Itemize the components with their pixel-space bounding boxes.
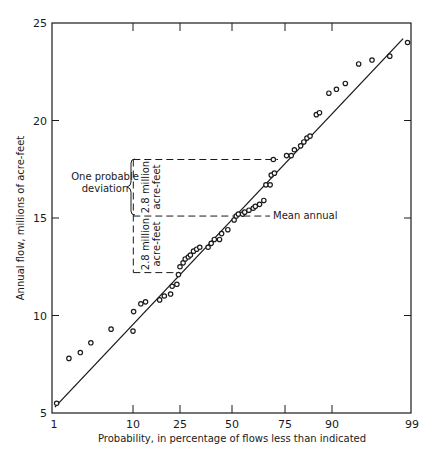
data-point [308,134,312,138]
y-tick-label: 5 [40,407,47,420]
data-point [170,284,174,288]
x-tick-label: 25 [173,418,187,431]
annotations: Mean annual One probable deviation 2.8 m… [71,159,337,270]
data-point [206,245,210,249]
data-point [89,341,93,345]
data-point [54,401,58,405]
data-point [78,350,82,354]
data-point [209,241,213,245]
trend-line [55,39,403,408]
deviation-label-line1: One probable [71,171,139,182]
y-tick-label: 15 [33,212,47,225]
data-point [268,183,272,187]
data-point [109,327,113,331]
data-point [217,237,221,241]
data-point [284,153,288,157]
data-point [289,153,293,157]
data-point [175,282,179,286]
data-point [198,245,202,249]
x-tick-label: 10 [126,418,140,431]
data-point [157,298,161,302]
upper-range-label-line1: 2.8 million [140,161,151,213]
lower-range-label-line2: acre-feet [151,221,162,266]
x-tick-label: 1 [51,418,58,431]
data-point [176,272,180,276]
data-point [272,171,276,175]
data-point [292,148,296,152]
data-point [212,237,216,241]
y-tick-label: 25 [33,17,47,30]
data-point [219,231,223,235]
upper-range-label-line2: acre-feet [151,164,162,209]
data-point [317,111,321,115]
deviation-label-line2: deviation [82,183,128,194]
x-axis-title: Probability, in percentage of flows less… [98,433,366,444]
data-point [226,228,230,232]
data-point [162,294,166,298]
fitted-line [55,39,403,408]
data-point [334,87,338,91]
data-point [327,91,331,95]
probability-plot: 1102550759099510152025 Mean annual One p… [0,0,433,463]
data-point [388,54,392,58]
data-point [302,140,306,144]
y-axis-title: Annual flow, millions of acre-feet [15,136,26,301]
data-point [188,253,192,257]
data-point [370,58,374,62]
data-point [262,198,266,202]
data-point [168,292,172,296]
data-point [298,144,302,148]
data-point [356,62,360,66]
data-point [343,81,347,85]
x-tick-label: 90 [325,418,339,431]
data-point [139,302,143,306]
data-point [131,329,135,333]
data-point [67,356,71,360]
data-point [257,202,261,206]
mean-annual-label: Mean annual [273,210,337,221]
data-point [271,157,275,161]
data-point [405,40,409,44]
y-tick-label: 20 [33,115,47,128]
lower-range-label-line1: 2.8 million [140,218,151,270]
y-tick-label: 10 [33,310,47,323]
plot-frame [52,23,411,413]
x-tick-label: 75 [278,418,292,431]
x-tick-label: 50 [225,418,239,431]
data-point [143,300,147,304]
data-point [178,265,182,269]
data-point [131,309,135,313]
x-tick-label: 99 [405,418,419,431]
plot-border [52,23,411,413]
